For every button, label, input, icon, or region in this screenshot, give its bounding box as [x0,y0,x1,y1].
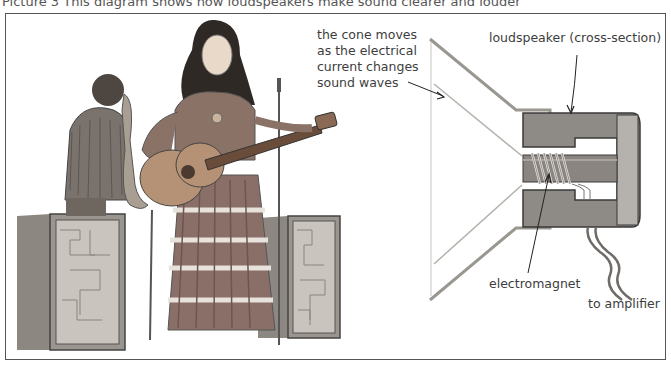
cone-label-line-1: the cone moves [317,27,419,43]
loudspeaker-label: loudspeaker (cross-section) [489,30,661,46]
electromagnet-label: electromagnet [489,276,580,292]
amplifier-label: to amplifier [588,296,660,312]
magnet-assembly [523,113,640,227]
cone-label-line-4: sound waves [317,75,419,91]
cone-label-line-2: as the electrical [317,43,419,59]
cone-label-line-3: current changes [317,59,419,75]
amplifier-wires-icon [588,227,633,300]
cone-moves-label: the cone moves as the electrical current… [317,27,419,91]
